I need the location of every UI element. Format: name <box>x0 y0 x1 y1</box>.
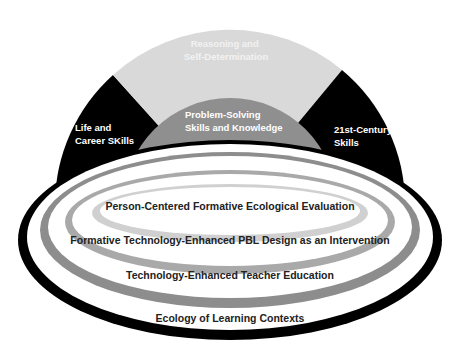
ring-teacher-education-label: Technology-Enhanced Teacher Education <box>126 269 334 281</box>
ring-evaluation-label: Person-Centered Formative Ecological Eva… <box>105 200 354 212</box>
ring-pbl-design-label: Formative Technology-Enhanced PBL Design… <box>70 234 389 246</box>
ring-ecology-label: Ecology of Learning Contexts <box>156 312 305 324</box>
diagram-canvas: Reasoning and Self-Determination Life an… <box>0 0 459 343</box>
